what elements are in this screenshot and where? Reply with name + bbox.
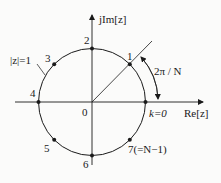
circle-label: |z|=1 xyxy=(10,55,31,66)
point-label-7: 7(=N−1) xyxy=(128,144,167,155)
origin-label: 0 xyxy=(82,107,88,118)
point-k3 xyxy=(52,62,56,66)
z-plane-diagram: jIm[z] Re[z] 0 |z|=1 2π / N k=0 1 2 3 4 … xyxy=(0,0,221,183)
point-label-6: 6 xyxy=(83,159,89,170)
radial-line xyxy=(92,41,152,102)
point-label-3: 3 xyxy=(45,53,51,64)
point-label-k0: k=0 xyxy=(149,108,167,119)
angle-label: 2π / N xyxy=(154,66,182,77)
point-k1 xyxy=(128,62,132,66)
point-k6 xyxy=(90,154,94,158)
point-label-1: 1 xyxy=(127,51,133,62)
point-k5 xyxy=(52,138,56,142)
point-k2 xyxy=(90,47,94,51)
point-label-5: 5 xyxy=(44,143,50,154)
point-label-2: 2 xyxy=(84,35,90,46)
point-k7 xyxy=(128,138,132,142)
point-label-4: 4 xyxy=(30,88,36,99)
circle-label-leader xyxy=(37,64,45,75)
point-k4 xyxy=(37,100,41,104)
real-axis-label: Re[z] xyxy=(184,108,208,119)
point-k0 xyxy=(144,100,148,104)
imag-axis-label: jIm[z] xyxy=(99,14,126,25)
